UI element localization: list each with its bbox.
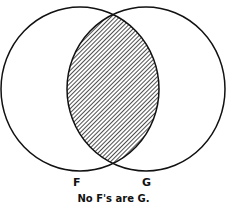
set-label-f: F bbox=[73, 176, 81, 189]
venn-diagram bbox=[0, 0, 227, 185]
set-label-g: G bbox=[142, 176, 151, 189]
diagram-caption: No F's are G. bbox=[0, 193, 227, 204]
intersection-shaded-region bbox=[67, 7, 225, 171]
